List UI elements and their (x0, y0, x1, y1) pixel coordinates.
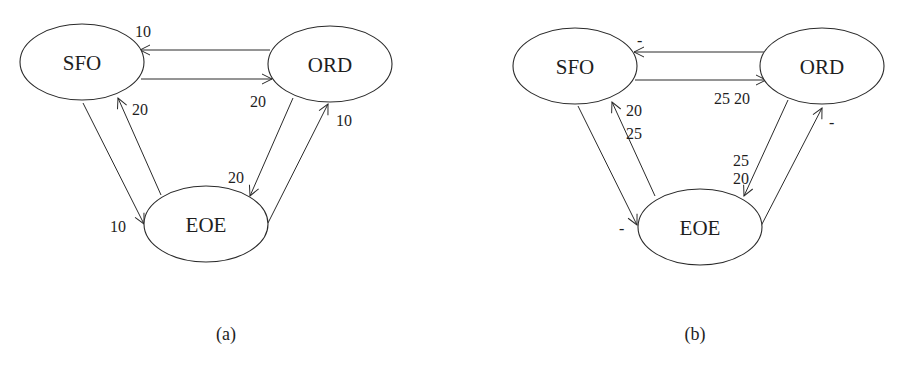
edge-label-ord-to-eoe: 20 (228, 169, 244, 186)
edge-label-eoe-to-ord: 10 (336, 112, 352, 129)
edge-label-sfo-to-eoe: - (619, 220, 624, 237)
edge-eoe-to-ord (268, 104, 328, 223)
caption-b: (b) (685, 324, 706, 345)
edge-eoe-to-ord (761, 108, 822, 226)
network-diagram-canvas: SFO ORD EOE 10 20 10 20 20 10 (a) (0, 0, 901, 368)
node-eoe: EOE (144, 186, 268, 262)
node-label-eoe: EOE (680, 216, 721, 240)
node-eoe: EOE (638, 189, 762, 265)
node-sfo: SFO (513, 28, 637, 104)
node-label-sfo: SFO (556, 55, 595, 79)
node-ord: ORD (268, 26, 392, 102)
edge-label-sfo-to-ord: 25 20 (714, 90, 750, 107)
node-label-sfo: SFO (63, 51, 102, 75)
edge-label-eoe-to-sfo: 2025 (626, 102, 642, 142)
node-label-ord: ORD (800, 55, 844, 79)
edge-ord-to-eoe (250, 98, 293, 196)
edge-ord-to-eoe (744, 100, 788, 196)
node-label-ord: ORD (308, 53, 352, 77)
edge-label-sfo-to-eoe: 10 (110, 218, 126, 235)
edge-label-eoe-to-ord: - (829, 114, 834, 131)
diagram-b: SFO ORD EOE - 25 20 - 2025 2520 - (b) (513, 28, 884, 345)
caption-a: (a) (216, 324, 236, 345)
node-sfo: SFO (20, 24, 144, 100)
node-label-eoe: EOE (186, 213, 227, 237)
edge-label-ord-to-sfo: 10 (135, 23, 151, 40)
edge-label-eoe-to-sfo: 20 (132, 101, 148, 118)
edge-sfo-to-eoe (83, 103, 144, 224)
edge-sfo-to-eoe (578, 106, 637, 225)
node-ord: ORD (760, 28, 884, 104)
nodes-a: SFO ORD EOE (20, 24, 392, 262)
edge-label-ord-to-eoe: 2520 (733, 152, 749, 187)
diagram-a: SFO ORD EOE 10 20 10 20 20 10 (a) (20, 23, 392, 345)
edge-label-sfo-to-ord: 20 (250, 93, 266, 110)
nodes-b: SFO ORD EOE (513, 28, 884, 265)
edge-label-ord-to-sfo: - (637, 32, 642, 49)
